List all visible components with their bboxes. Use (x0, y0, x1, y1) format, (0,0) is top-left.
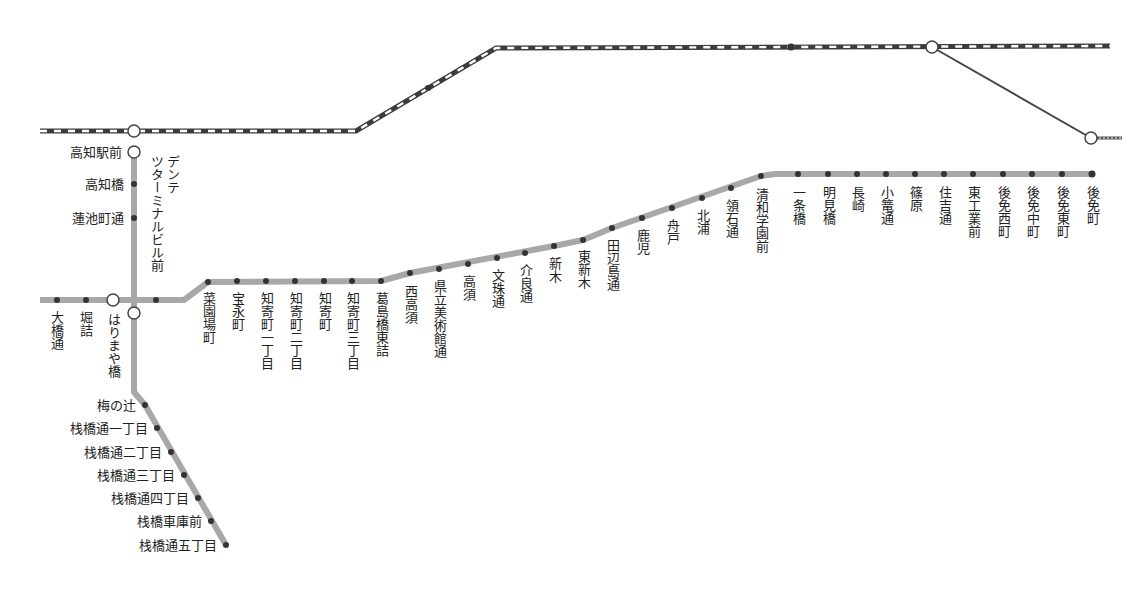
stop-shingi[interactable] (551, 243, 557, 249)
label-horizume: 堀詰 (78, 311, 92, 337)
stop-dentetsu[interactable] (153, 297, 159, 303)
stop-saenbacho[interactable] (205, 279, 211, 285)
stop-takasu[interactable] (465, 261, 471, 267)
stop-keradori[interactable] (522, 250, 528, 256)
label-sanbashi5: 栈橋通五丁目 (139, 538, 217, 553)
label-shinohara: 篠原 (908, 186, 922, 212)
stop-ohashidori[interactable] (54, 297, 60, 303)
stop-seiwagakuen[interactable] (758, 173, 764, 179)
stop-sanbashi4[interactable] (195, 495, 201, 501)
stop-sanbashi3[interactable] (181, 472, 187, 478)
label-chiyoricho: 知寄町 (317, 292, 331, 331)
label-dentetsu-col1: デンテ (165, 155, 179, 194)
tram-main-line (40, 174, 1092, 300)
label-monjudori: 文珠通 (490, 269, 504, 308)
label-chiyoricho2: 知寄町二丁目 (288, 292, 302, 370)
label-gomenhigashi: 後免東町 (1055, 186, 1069, 238)
stop-shinohara[interactable] (912, 171, 918, 177)
stop-kochibashi[interactable] (131, 181, 137, 187)
stop-sumiyoshidori[interactable] (941, 171, 947, 177)
stop-chiyoricho2[interactable] (292, 278, 298, 284)
stop-kazurashima[interactable] (378, 278, 384, 284)
label-ichijobashi: 一条橋 (791, 186, 805, 225)
stop-chiyoricho3[interactable] (349, 278, 355, 284)
label-myokenbashi: 明見橋 (821, 186, 835, 225)
label-gomennishi: 後免西町 (996, 186, 1010, 238)
label-sumiyoshidori: 住吉通 (937, 186, 951, 225)
stop-kochiekimae[interactable] (128, 146, 140, 158)
stop-hoeicho[interactable] (234, 278, 240, 284)
branch-rail-line (932, 47, 1122, 138)
stop-gomenmachi[interactable] (1089, 171, 1096, 178)
stop-funato[interactable] (669, 205, 675, 211)
label-nishitakasu: 西高須 (403, 285, 417, 324)
label-nagasaki: 長崎 (850, 186, 864, 212)
stop-umenotsuji[interactable] (142, 402, 148, 408)
label-tanabeshima: 田辺島通 (605, 239, 619, 291)
label-sanbashi2: 栈橋通二丁目 (84, 445, 162, 460)
stop-harimayabashi-main[interactable] (107, 294, 119, 306)
stop-chiyoricho[interactable] (321, 278, 327, 284)
rail-terminal-station[interactable] (1085, 132, 1097, 144)
label-higashishingi: 東新木 (576, 250, 590, 289)
label-saenbacho: 菜園場町 (201, 292, 215, 344)
stop-monjudori[interactable] (494, 255, 500, 261)
label-takasu: 高須 (461, 275, 475, 301)
stop-higashishingi[interactable] (580, 237, 586, 243)
label-sanbashishako: 栈橋車庫前 (137, 514, 202, 529)
label-hoeicho: 宝永町 (230, 292, 244, 331)
stop-gomennishi[interactable] (1000, 171, 1006, 177)
stop-sanbashi5[interactable] (223, 542, 229, 548)
stop-higashikogyo[interactable] (970, 171, 976, 177)
label-chiyoricho3: 知寄町三丁目 (345, 292, 359, 370)
label-kochiekimae: 高知駅前 (70, 145, 122, 160)
label-sanbashi1: 栈橋通一丁目 (70, 421, 148, 436)
label-kitaura: 北浦 (695, 209, 709, 235)
label-gomennaka: 後免中町 (1025, 186, 1039, 238)
label-sanbashi3: 栈橋通三丁目 (97, 468, 175, 483)
label-funato: 舟戸 (665, 219, 679, 245)
label-ryosekidori: 領石通 (724, 199, 738, 238)
stop-kenritsu[interactable] (436, 266, 442, 272)
stop-kitaura[interactable] (699, 195, 705, 201)
label-chiyoricho1: 知寄町一丁目 (259, 292, 273, 370)
stop-sanbashi2[interactable] (168, 449, 174, 455)
stop-tanabeshima[interactable] (609, 225, 615, 231)
stop-ryosekidori[interactable] (728, 185, 734, 191)
tram-north-south-line (134, 152, 226, 545)
label-shingi: 新木 (547, 257, 561, 283)
label-keradori: 介良通 (518, 264, 532, 303)
stop-sanbashishako[interactable] (208, 518, 214, 524)
stop-harimayabashi-south[interactable] (128, 307, 140, 319)
stop-myokenbashi[interactable] (825, 171, 831, 177)
label-sanbashi4: 栈橋通四丁目 (111, 491, 189, 506)
stop-chiyoricho1[interactable] (263, 278, 269, 284)
label-umenotsuji: 梅の辻 (97, 398, 136, 413)
stop-gomenhigashi[interactable] (1059, 171, 1065, 177)
stop-nishitakasu[interactable] (407, 270, 413, 276)
stop-kozekudori[interactable] (883, 171, 889, 177)
label-higashikogyo: 東工業前 (966, 186, 980, 238)
stop-kago[interactable] (639, 215, 645, 221)
label-kazurashima: 葛島橋東詰 (374, 292, 388, 357)
stop-ichijobashi[interactable] (795, 171, 801, 177)
label-seiwagakuen: 清和学園前 (754, 188, 768, 253)
rail-station-dot (425, 85, 431, 91)
label-kago: 鹿児 (635, 229, 649, 255)
stop-horizume[interactable] (83, 297, 89, 303)
label-ohashidori: 大橋通 (49, 311, 63, 350)
label-hasuike: 蓮池町通 (72, 211, 124, 226)
stop-sanbashi1[interactable] (154, 425, 160, 431)
label-dentetsu-col2: ツターミナルビル前 (149, 155, 163, 272)
label-kozekudori: 小篭通 (879, 186, 893, 225)
rail-transfer-station-gomen[interactable] (926, 41, 938, 53)
rail-station-dot (788, 44, 795, 51)
label-kochibashi: 高知橋 (85, 177, 124, 192)
stop-hasuike[interactable] (131, 215, 137, 221)
label-gomenmachi: 後免町 (1085, 186, 1099, 225)
label-harimayabashi: はりまや橋 (106, 313, 120, 378)
label-kenritsu: 県立美術館通 (432, 280, 446, 358)
stop-nagasaki[interactable] (854, 171, 860, 177)
stop-gomennaka[interactable] (1029, 171, 1035, 177)
rail-transfer-station-kochi[interactable] (128, 125, 140, 137)
